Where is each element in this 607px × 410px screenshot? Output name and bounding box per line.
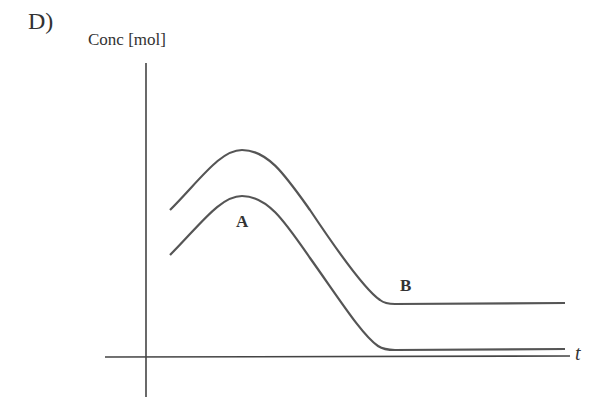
x-axis [105,356,570,357]
lower-curve [170,196,565,350]
upper-curve [170,150,565,304]
chart-plot [0,0,607,410]
